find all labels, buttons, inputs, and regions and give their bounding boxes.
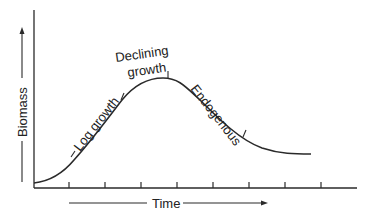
growth-curve-diagram: Log growth Declining growth Endogenous B…: [0, 0, 369, 217]
x-axis-label: Time: [152, 196, 180, 211]
y-axis-arrow-icon: [20, 27, 25, 34]
y-axis-label: Biomass: [15, 87, 30, 137]
x-axis-arrow-icon: [261, 201, 268, 206]
endogenous-label: Endogenous: [188, 82, 245, 149]
x-axis-ticks: [69, 182, 321, 188]
log-growth-label: Log growth: [71, 94, 122, 154]
declining-growth-label-line2: growth: [126, 60, 167, 80]
growth-curve: [34, 78, 311, 183]
